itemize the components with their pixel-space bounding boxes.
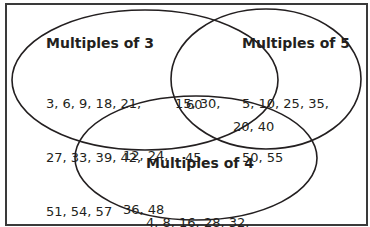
set-c-line-1: 4, 8, 16, 28, 32, [146,214,249,227]
set-b-line-2: 50, 55 [242,149,329,167]
set-a-label: Multiples of 3 [46,34,154,52]
set-c-label: Multiples of 4 [146,154,254,172]
set-b-label: Multiples of 5 [242,34,350,52]
set-b-line-1: 5, 10, 25, 35, [242,95,329,113]
intersection-b-c-values: 20, 40 [233,118,274,136]
set-c-values: 4, 8, 16, 28, 32, 44, 52, 56 [146,178,249,227]
intersection-a-b-c-values: 60 [186,96,203,114]
